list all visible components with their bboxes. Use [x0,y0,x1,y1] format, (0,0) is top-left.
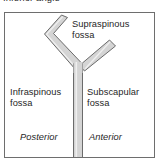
label-infraspinous-fossa-line2: fossa [10,98,76,109]
label-subscapular-fossa: Subscapular fossa [87,87,153,109]
figure-caption-above: Inferior angle [3,0,60,3]
figure-root: Inferior angle Supraspinous [0,0,161,166]
label-infraspinous-fossa: Infraspinous fossa [10,87,76,109]
label-subscapular-fossa-line2: fossa [87,98,153,109]
coracoid-right-arm [80,40,116,71]
label-supraspinous-fossa-line2: fossa [72,30,152,41]
label-posterior-direction: Posterior [20,132,58,143]
diagram-panel: Supraspinous fossa Infraspinous fossa Su… [4,12,155,158]
label-supraspinous-fossa-line1: Supraspinous [72,19,152,30]
label-infraspinous-fossa-line1: Infraspinous [10,87,76,98]
label-supraspinous-fossa: Supraspinous fossa [72,19,152,41]
label-anterior-direction: Anterior [89,132,122,143]
label-subscapular-fossa-line1: Subscapular [87,87,153,98]
scapula-body-stem [74,64,83,159]
limb-junction-fill [74,62,83,73]
